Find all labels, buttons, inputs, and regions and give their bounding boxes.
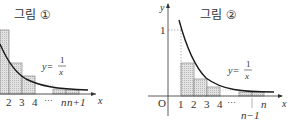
tick-label: 4	[32, 96, 38, 108]
y-axis-label: y	[159, 2, 165, 13]
origin-label: O	[158, 97, 166, 109]
bar	[207, 87, 220, 96]
y-axis-arrow-icon	[166, 3, 170, 8]
bar	[0, 30, 9, 94]
tick-label: ⋯	[44, 96, 53, 106]
tick-label: 3	[19, 96, 25, 108]
bar	[66, 90, 79, 94]
function-label: y= 1 x	[227, 59, 252, 81]
bar	[194, 79, 207, 96]
figure-2: 그림 ② y x 1 O 1 2 3 4 ⋯ n n−	[148, 2, 287, 121]
bar	[9, 63, 22, 94]
tick-label: ⋯	[227, 98, 236, 108]
bar	[53, 89, 66, 94]
n-minus-1-label: n−1	[241, 109, 259, 121]
svg-text:x: x	[244, 71, 249, 81]
diagram-canvas: 그림 ① x 2 3 4 ⋯ n n+1 y= 1 x	[0, 0, 290, 122]
x-axis-label: x	[97, 95, 103, 106]
bar	[239, 92, 252, 96]
figure-1: 그림 ① x 2 3 4 ⋯ n n+1 y= 1 x	[0, 8, 103, 108]
bar	[181, 63, 194, 96]
y-tick-label: 1	[160, 24, 166, 36]
tick-label: n	[261, 98, 267, 110]
tick-label: 1	[178, 98, 184, 110]
x-axis-label: x	[281, 98, 287, 109]
svg-text:y=: y=	[227, 65, 239, 76]
figure-2-title: 그림 ②	[200, 8, 237, 22]
bar	[22, 76, 35, 94]
tick-label: 3	[204, 98, 210, 110]
function-label: y= 1 x	[41, 55, 66, 77]
x-axis-arrow-icon	[91, 92, 96, 96]
svg-text:x: x	[58, 67, 63, 77]
figure-1-title: 그림 ①	[14, 8, 51, 22]
tick-label: 4	[217, 98, 223, 110]
tick-label: 2	[6, 96, 12, 108]
tick-label: 2	[191, 98, 197, 110]
svg-text:y=: y=	[41, 61, 53, 72]
bar	[252, 92, 264, 96]
bar-dotted	[220, 90, 239, 96]
svg-text:1: 1	[246, 59, 251, 69]
tick-label: n+1	[67, 96, 85, 108]
svg-text:1: 1	[60, 55, 65, 65]
